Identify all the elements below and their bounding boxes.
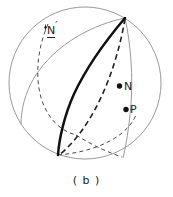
dashed-great-circle-bottom-arc	[58, 115, 136, 155]
dashed-great-circle-front-arc	[59, 19, 125, 155]
label-n: N	[124, 81, 132, 92]
thin-great-circle-left-limb-arc	[21, 18, 125, 124]
label-n-prime: N′	[47, 21, 58, 36]
point-p-marker	[123, 107, 128, 112]
sphere-diagram-figure: N′ N P ( b )	[0, 0, 173, 197]
label-n-prime-mark: ′	[55, 20, 57, 31]
label-n-prime-letter: N	[47, 24, 55, 38]
sphere-diagram-canvas	[0, 0, 173, 197]
point-n-marker	[117, 83, 122, 88]
label-p: P	[130, 104, 137, 115]
apex-vertex-marker	[124, 17, 126, 19]
sphere-outline-circle	[9, 7, 161, 159]
bold-meridian-arc	[58, 18, 125, 155]
figure-caption: ( b )	[0, 174, 173, 187]
